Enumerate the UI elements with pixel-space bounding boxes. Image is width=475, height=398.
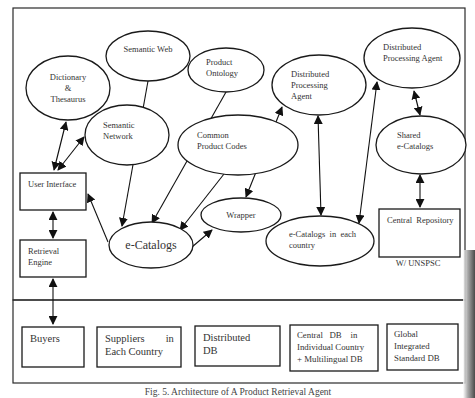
db-label: Standard DB [394, 353, 440, 363]
node-label: e-Catalogs [125, 238, 177, 252]
node-label: Agent [291, 91, 312, 101]
db-label: Central DB in [297, 330, 358, 340]
db-label: Each Country [105, 346, 164, 357]
node-semantic-web: Semantic Web [106, 31, 190, 81]
node-retrieval-engine: Retrieval Engine [20, 240, 86, 277]
db-label: Global [394, 329, 418, 339]
node-label: country [289, 240, 316, 250]
db-suppliers: Suppliers in Each Country [97, 327, 181, 367]
node-dictionary: Dictionary & Thesaurus [26, 56, 110, 120]
node-shared-ecatalogs: Shared e-Catalogs [376, 116, 466, 174]
db-label: Integrated [394, 341, 430, 351]
edge-dpa-right-shared [414, 91, 420, 115]
db-distributed: Distributed DB [195, 326, 280, 366]
node-label: Shared [397, 130, 421, 140]
db-label: DB [203, 345, 218, 356]
node-common-product-codes: Common Product Codes [178, 115, 298, 175]
node-label: Processing [291, 80, 329, 90]
node-ecatalogs-each-country: e-Catalogs in each country [266, 216, 374, 266]
node-label: Network [103, 131, 133, 141]
node-label: Semantic [103, 120, 135, 130]
node-label: User Interface [28, 179, 77, 189]
db-label: Suppliers in [105, 333, 175, 344]
db-buyers: Buyers [22, 327, 84, 367]
db-global: Global Integrated Standard DB [387, 324, 458, 370]
node-label: Product Codes [197, 141, 247, 151]
node-label: Distributed [383, 42, 422, 52]
db-central: Central DB in Individual Country + Multi… [290, 325, 378, 371]
scan-shadow [463, 250, 475, 398]
architecture-diagram: Dictionary & Thesaurus Semantic Web Prod… [0, 0, 475, 398]
node-label: e-Catalogs in each [289, 229, 357, 239]
node-label: Engine [28, 257, 52, 267]
db-label: + Multilingual DB [297, 354, 363, 364]
db-label: Individual Country [297, 342, 365, 352]
edge-ecatalogs-ui [88, 194, 108, 242]
node-label: Semantic Web [124, 44, 173, 54]
figure-caption: Fig. 5. Architecture of A Product Retrie… [145, 387, 332, 397]
node-label: Processing Agent [383, 53, 443, 63]
node-distributed-processing-agent: Distributed Processing Agent [272, 55, 366, 115]
node-central-repository: Central Repository [379, 209, 460, 257]
db-label: Buyers [30, 333, 60, 344]
node-user-interface: User Interface [20, 173, 86, 210]
node-label: Wrapper [226, 210, 256, 220]
node-ecatalogs: e-Catalogs [109, 222, 193, 268]
db-label: Distributed [203, 332, 251, 343]
node-label: Product [206, 57, 233, 67]
edge-ecatalogs-wrapper [192, 230, 212, 247]
node-label: Distributed [291, 69, 330, 79]
node-semantic-network: Semantic Network [85, 105, 169, 165]
edge-ui-semantic-network [58, 137, 84, 170]
edge-country-dpa [318, 116, 321, 215]
central-repository-note: W/ UNSPSC [396, 258, 441, 268]
node-label: Central Repository [387, 215, 454, 225]
node-distributed-processing-agent-right: Distributed Processing Agent [364, 28, 460, 88]
node-label: Thesaurus [51, 94, 86, 104]
node-wrapper: Wrapper [201, 198, 281, 232]
node-product-ontology: Product Ontology [188, 48, 264, 92]
edge-country-dpa-right [359, 82, 377, 223]
node-label: Common [197, 130, 229, 140]
node-label: Retrieval [28, 246, 60, 256]
node-label: e-Catalogs [397, 141, 433, 151]
node-label: Dictionary [50, 72, 87, 82]
node-label: & [65, 83, 72, 93]
node-label: Ontology [206, 68, 239, 78]
